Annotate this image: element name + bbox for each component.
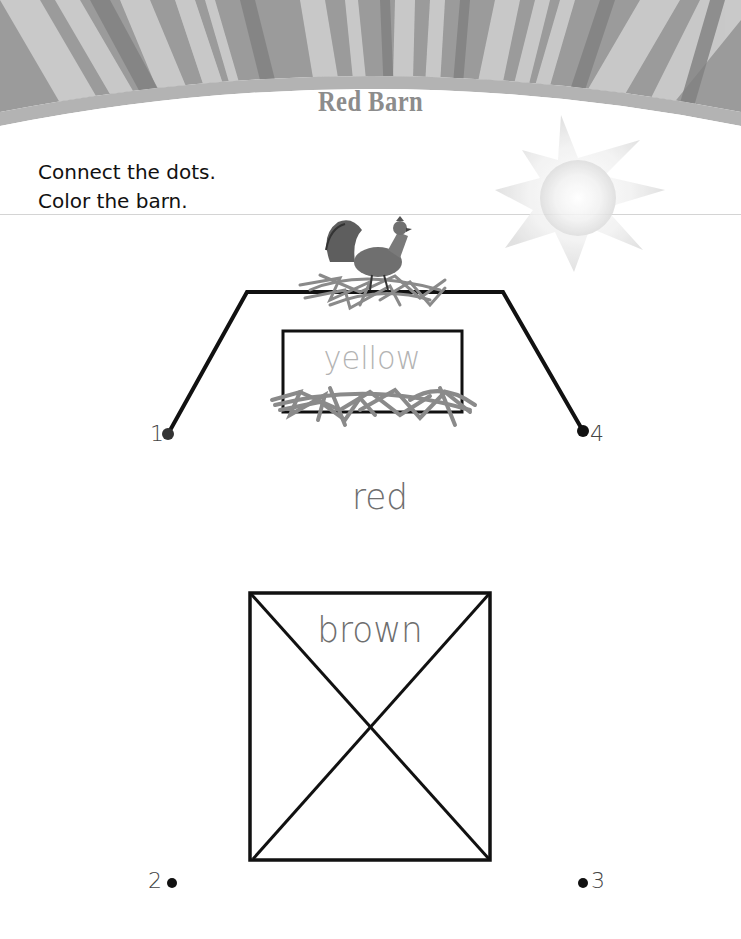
dot-3 bbox=[578, 878, 588, 888]
color-label-red: red bbox=[295, 476, 466, 517]
dot-label-4: 4 bbox=[590, 421, 604, 446]
dot-label-3: 3 bbox=[591, 868, 605, 893]
color-label-brown: brown bbox=[256, 609, 484, 650]
dot-label-2: 2 bbox=[148, 868, 162, 893]
straw-pile-icon bbox=[272, 388, 475, 425]
sun-icon bbox=[495, 115, 665, 272]
color-label-yellow: yellow bbox=[287, 339, 458, 377]
dot-label-1: 1 bbox=[150, 421, 164, 446]
barn-drawing bbox=[0, 0, 741, 939]
dot-2 bbox=[167, 878, 177, 888]
dot-4 bbox=[577, 425, 589, 437]
